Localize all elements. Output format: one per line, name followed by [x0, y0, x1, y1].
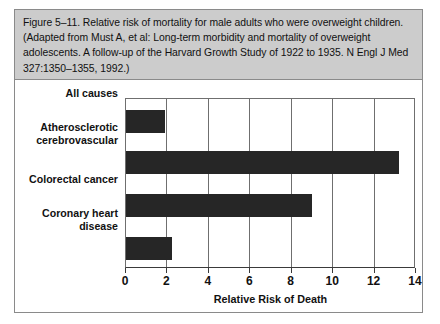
x-axis-tick-label: 8	[287, 274, 294, 288]
figure-container: Figure 5–11. Relative risk of mortality …	[14, 9, 423, 313]
x-axis-tick	[332, 268, 333, 273]
gridline	[208, 99, 209, 267]
category-label-coronary-heart-disease: Coronary heart disease	[0, 207, 118, 233]
x-axis-tick-label: 0	[122, 274, 129, 288]
gridline	[374, 99, 375, 267]
x-axis-title: Relative Risk of Death	[125, 293, 416, 305]
x-axis-tick-label: 10	[325, 274, 338, 288]
x-axis-tick	[249, 268, 250, 273]
category-label-atherosclerotic-cerebrovascular: Atherosclerotic cerebrovascular	[0, 121, 118, 147]
x-axis-tick	[166, 268, 167, 273]
bar	[126, 237, 172, 260]
gridline	[332, 99, 333, 267]
gridline	[249, 99, 250, 267]
x-axis-tick	[374, 268, 375, 273]
gridline	[291, 99, 292, 267]
category-label-line: All causes	[0, 87, 118, 100]
x-axis-tick-label: 2	[163, 274, 170, 288]
chart-region: All causes Atherosclerotic cerebrovascul…	[15, 81, 422, 312]
bar	[126, 151, 399, 174]
x-axis-tick	[291, 268, 292, 273]
category-label-line: disease	[0, 220, 118, 233]
x-axis-tick-label: 14	[408, 274, 421, 288]
x-axis-tick	[125, 268, 126, 273]
figure-caption-text: Figure 5–11. Relative risk of mortality …	[23, 15, 414, 76]
bar	[126, 110, 165, 133]
figure-caption-box: Figure 5–11. Relative risk of mortality …	[15, 10, 422, 80]
x-axis-tick	[415, 268, 416, 273]
category-label-line: Colorectal cancer	[0, 173, 118, 186]
category-label-all-causes: All causes	[0, 87, 118, 100]
category-label-colorectal-cancer: Colorectal cancer	[0, 173, 118, 186]
category-label-line: Coronary heart	[0, 207, 118, 220]
x-axis-tick-label: 4	[205, 274, 212, 288]
x-axis-tick-label: 12	[367, 274, 380, 288]
category-label-line: cerebrovascular	[0, 134, 118, 147]
category-label-line: Atherosclerotic	[0, 121, 118, 134]
bar	[126, 194, 312, 217]
x-axis-tick-label: 6	[246, 274, 253, 288]
x-axis-tick	[208, 268, 209, 273]
plot-area	[125, 98, 415, 268]
